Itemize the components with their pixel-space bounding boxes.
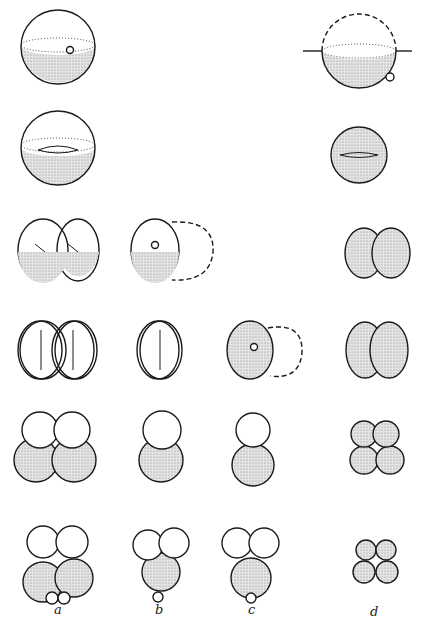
egg-row4-a: [18, 321, 97, 379]
column-label-a: a: [54, 602, 62, 617]
egg-row6-a: [23, 526, 93, 604]
egg-row5-b: [139, 411, 183, 482]
egg-row3-d: [345, 228, 410, 278]
egg-row5-d: [350, 421, 404, 474]
egg-row4-b: [137, 321, 182, 379]
egg-row1-d: [303, 14, 412, 88]
column-label-b: b: [155, 602, 163, 617]
egg-row4-c: [227, 321, 302, 379]
egg-row2-d: [331, 127, 387, 183]
egg-row5-a: [14, 412, 96, 482]
egg-row6-d: [353, 540, 398, 583]
column-label-c: c: [248, 602, 255, 617]
egg-row5-c: [232, 413, 274, 486]
egg-row3-b: [131, 219, 213, 283]
egg-row2-a: [21, 111, 96, 186]
embryo-cleavage-figure: [0, 0, 431, 629]
egg-row4-d: [346, 322, 408, 378]
egg-row6-c: [222, 528, 279, 603]
egg-row3-a: [18, 219, 99, 283]
egg-row1-a: [21, 10, 96, 84]
egg-row6-b: [133, 528, 189, 602]
column-label-d: d: [370, 604, 378, 619]
